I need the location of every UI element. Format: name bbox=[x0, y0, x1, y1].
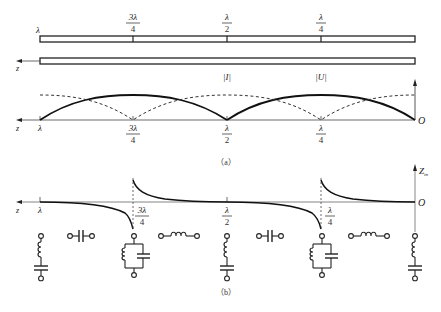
plot-a-origin-label: O bbox=[418, 115, 425, 126]
plot-b-xlabel-lambda2-den: 2 bbox=[225, 217, 230, 227]
zin-label: Zin bbox=[419, 166, 428, 177]
zin-curve-segment-4 bbox=[321, 180, 415, 202]
line-label-3lambda4-den: 4 bbox=[131, 24, 136, 34]
voltage-curve-left bbox=[40, 95, 227, 120]
plot-b-vertical-arrow-icon bbox=[413, 164, 417, 171]
series-lc-circuit-icon bbox=[34, 234, 48, 281]
plot-b-xlabel-3lambda4-num: 3λ bbox=[137, 205, 147, 215]
inductor-circuit-icon bbox=[349, 232, 390, 238]
parallel-lc-circuit-icon bbox=[122, 234, 150, 278]
zin-curve-segment-2 bbox=[133, 180, 227, 202]
plot-b-z-arrow-icon bbox=[16, 200, 22, 204]
standing-wave-diagram: z λ 3λ 4 λ 2 λ 4 z O |I| |U| bbox=[0, 0, 441, 312]
plot-a-xlabel-lambda4-den: 4 bbox=[319, 135, 324, 145]
plot-a-xlabel-3lambda4-den: 4 bbox=[131, 135, 136, 145]
zin-curve-segment-1 bbox=[40, 202, 133, 229]
caption-a: （a） bbox=[216, 158, 236, 167]
series-lc-circuit-icon bbox=[220, 234, 234, 281]
plot-b-xlabel-3lambda4-den: 4 bbox=[140, 217, 145, 227]
plot-a-xlabel-lambda4-num: λ bbox=[318, 123, 323, 133]
series-lc-circuit-icon bbox=[408, 234, 422, 281]
plot-b-xlabel-lambda: λ bbox=[37, 205, 42, 215]
plot-a-xlabel-lambda2-den: 2 bbox=[225, 135, 230, 145]
plot-b-z-label: z bbox=[15, 206, 20, 215]
line-label-lambda: λ bbox=[35, 25, 40, 35]
line-label-lambda4-den: 4 bbox=[319, 24, 324, 34]
z-arrow-head-icon bbox=[16, 59, 22, 63]
capacitor-circuit-icon bbox=[257, 230, 284, 242]
inductor-circuit-icon bbox=[159, 232, 200, 238]
plot-a-xlabel-lambda2-num: λ bbox=[224, 123, 229, 133]
transmission-line: z λ 3λ 4 λ 2 λ 4 bbox=[15, 12, 415, 73]
lower-conductor bbox=[40, 58, 415, 64]
plot-a-xlabel-3lambda4-num: 3λ bbox=[128, 123, 138, 133]
line-label-lambda2-num: λ bbox=[224, 12, 229, 22]
line-label-lambda2-den: 2 bbox=[225, 24, 230, 34]
caption-b: （b） bbox=[216, 288, 236, 297]
plot-b-xlabel-lambda4-den: 4 bbox=[328, 217, 333, 227]
plot-b-xlabel-lambda4-num: λ bbox=[327, 205, 332, 215]
plot-a-z-label: z bbox=[15, 124, 20, 133]
plot-a-z-arrow-icon bbox=[16, 118, 22, 122]
current-label: |I| bbox=[223, 72, 231, 82]
line-label-3lambda4-num: 3λ bbox=[128, 12, 138, 22]
voltage-label: |U| bbox=[315, 72, 326, 82]
line-label-lambda4-num: λ bbox=[318, 12, 323, 22]
capacitor-circuit-icon bbox=[68, 230, 95, 242]
standing-wave-plot: z O |I| |U| λ 3λ 4 λ 2 λ 4 （a） bbox=[15, 72, 425, 167]
plot-a-xlabel-lambda: λ bbox=[37, 123, 42, 133]
parallel-lc-circuit-icon bbox=[310, 234, 338, 278]
plot-a-vertical-arrow-icon bbox=[413, 79, 417, 86]
zin-curve-segment-3 bbox=[227, 202, 321, 229]
plot-b-xlabel-lambda2-num: λ bbox=[224, 205, 229, 215]
z-axis-label: z bbox=[15, 64, 20, 73]
plot-b-origin-label: O bbox=[418, 197, 425, 208]
input-impedance-plot: z Zin O λ 3λ 4 λ 2 λ 4 bbox=[15, 164, 428, 232]
equivalent-circuits-row bbox=[34, 230, 422, 281]
